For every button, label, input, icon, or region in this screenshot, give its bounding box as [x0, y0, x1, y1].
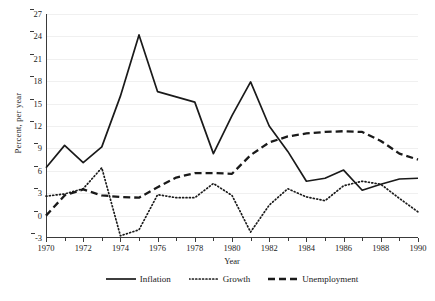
data-series-lines [46, 14, 418, 238]
y-tick-mark [30, 9, 34, 10]
y-tick-label: 3 [38, 188, 42, 198]
x-tick-mark [344, 238, 345, 242]
x-tick-mark [195, 238, 196, 242]
legend-swatch-solid [106, 275, 136, 283]
y-tick-mark [31, 233, 35, 234]
x-tick-mark [288, 238, 289, 241]
x-tick-label: 1980 [224, 243, 241, 253]
y-tick-label: 15 [34, 99, 43, 109]
series-line-unemployment [46, 131, 418, 215]
legend-item-growth[interactable]: Growth [189, 274, 251, 284]
series-line-growth [46, 168, 418, 236]
x-tick-label: 1974 [112, 243, 129, 253]
legend-label: Inflation [140, 274, 171, 284]
x-tick-mark [65, 238, 66, 241]
x-tick-mark [176, 238, 177, 241]
y-tick-mark [30, 99, 34, 100]
y-tick-label: 12 [34, 121, 43, 131]
x-tick-mark [213, 238, 214, 241]
x-tick-label: 1986 [335, 243, 352, 253]
y-tick-label: 6 [38, 166, 42, 176]
x-tick-mark [418, 238, 419, 242]
y-tick-mark [30, 76, 34, 77]
y-tick-mark [30, 121, 34, 122]
x-tick-mark [325, 238, 326, 241]
y-tick-mark [34, 188, 38, 189]
x-tick-mark [102, 238, 103, 241]
legend-swatch-dashed [268, 275, 298, 283]
y-tick-label: 27 [34, 9, 43, 19]
x-tick-mark [139, 238, 140, 241]
x-tick-mark [232, 238, 233, 242]
y-tick-label: -3 [35, 233, 42, 243]
y-tick-label: 0 [38, 211, 42, 221]
series-line-inflation [46, 35, 418, 190]
legend-swatch-dotted [189, 275, 219, 283]
y-tick-label: 21 [34, 54, 43, 64]
legend-label: Unemployment [302, 274, 358, 284]
x-tick-mark [399, 238, 400, 241]
y-tick-mark [34, 211, 38, 212]
x-tick-label: 1982 [261, 243, 278, 253]
plot-area: -30369121518212427 197019721974197619781… [46, 14, 418, 238]
x-tick-mark [158, 238, 159, 242]
x-tick-label: 1990 [410, 243, 427, 253]
x-tick-mark [251, 238, 252, 241]
y-tick-mark [34, 143, 38, 144]
legend-label: Growth [223, 274, 251, 284]
chart-legend: InflationGrowthUnemployment [46, 274, 418, 284]
x-axis-title: Year [46, 256, 418, 266]
x-tick-mark [362, 238, 363, 241]
x-tick-label: 1972 [75, 243, 92, 253]
y-tick-label: 9 [38, 143, 42, 153]
legend-item-unemployment[interactable]: Unemployment [268, 274, 358, 284]
x-tick-mark [83, 238, 84, 242]
x-tick-label: 1978 [186, 243, 203, 253]
legend-item-inflation[interactable]: Inflation [106, 274, 171, 284]
x-tick-mark [381, 238, 382, 242]
y-tick-mark [34, 166, 38, 167]
x-tick-mark [46, 238, 47, 242]
line-chart-figure: Percent, per year -30369121518212427 197… [0, 0, 435, 301]
y-axis-title: Percent, per year [13, 53, 23, 193]
y-tick-mark [30, 54, 34, 55]
x-tick-label: 1984 [298, 243, 315, 253]
y-tick-label: 24 [34, 31, 43, 41]
x-tick-mark [269, 238, 270, 242]
y-tick-label: 18 [34, 76, 43, 86]
x-tick-mark [120, 238, 121, 242]
x-tick-label: 1970 [38, 243, 55, 253]
x-tick-label: 1988 [372, 243, 389, 253]
x-tick-mark [306, 238, 307, 242]
y-tick-mark [30, 31, 34, 32]
x-tick-label: 1976 [149, 243, 166, 253]
